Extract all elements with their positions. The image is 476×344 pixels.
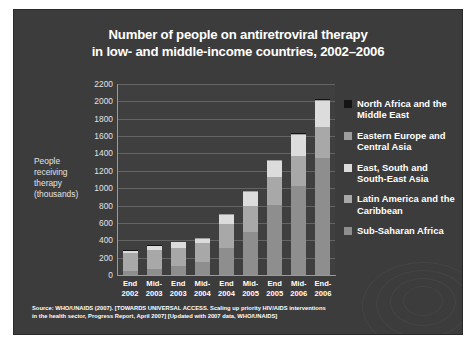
- y-axis-tick-label: 1600: [94, 131, 113, 141]
- y-axis-tick-label: 600: [99, 218, 113, 228]
- plot-area: 0200400600800100012001400160018002000220…: [118, 84, 335, 275]
- y-axis-tick-label: 200: [99, 253, 113, 263]
- chart-legend: North Africa and the Middle EastEastern …: [344, 98, 460, 246]
- legend-item-label: Sub-Saharan Africa: [357, 225, 444, 236]
- y-axis-tick-label: 800: [99, 201, 113, 211]
- gridline: [118, 119, 335, 120]
- bar-column[interactable]: [195, 238, 210, 275]
- x-axis-tick-label: Mid- 2003: [142, 279, 166, 298]
- bar-segment[interactable]: [123, 271, 138, 275]
- y-axis-tick-label: 2200: [94, 79, 113, 89]
- bar-segment[interactable]: [315, 158, 330, 275]
- legend-item-label: North Africa and the Middle East: [357, 98, 460, 121]
- legend-item-label: Latin America and the Caribbean: [357, 193, 460, 216]
- x-axis-tick-label: End 2002: [118, 279, 142, 298]
- bar-column[interactable]: [315, 99, 330, 275]
- source-line-2: in the health sector, Progress Report, A…: [32, 312, 444, 320]
- bar-segment[interactable]: [243, 206, 258, 233]
- legend-item[interactable]: Sub-Saharan Africa: [344, 225, 460, 236]
- y-axis-tick-label: 400: [99, 235, 113, 245]
- bar-segment[interactable]: [147, 269, 162, 276]
- bar-segment[interactable]: [219, 224, 234, 248]
- x-axis-tick-label: End 2005: [263, 279, 287, 298]
- bar-segment[interactable]: [267, 161, 282, 177]
- legend-item[interactable]: East, South and South-East Asia: [344, 162, 460, 185]
- bar-column[interactable]: [219, 214, 234, 275]
- x-axis-tick-label: Mid- 2005: [239, 279, 263, 298]
- y-axis-tick-label: 1200: [94, 166, 113, 176]
- bar-segment[interactable]: [315, 127, 330, 158]
- bar-segment[interactable]: [195, 262, 210, 275]
- bar-column[interactable]: [171, 242, 186, 275]
- x-axis-tick-label: Mid- 2006: [287, 279, 311, 298]
- bar-column[interactable]: [147, 245, 162, 275]
- gridline: [118, 101, 335, 102]
- bar-segment[interactable]: [267, 177, 282, 205]
- legend-item[interactable]: Latin America and the Caribbean: [344, 193, 460, 216]
- bar-segment[interactable]: [171, 266, 186, 275]
- bar-segment[interactable]: [123, 253, 138, 270]
- y-axis-tick-label: 0: [108, 270, 113, 280]
- y-axis-tick-label: 1800: [94, 114, 113, 124]
- legend-swatch-icon: [344, 227, 352, 235]
- bar-segment[interactable]: [171, 248, 186, 267]
- bar-segment[interactable]: [219, 248, 234, 275]
- source-note: Source: WHO/UNAIDS (2007). [TOWARDS UNIV…: [32, 304, 444, 320]
- legend-item[interactable]: Eastern Europe and Central Asia: [344, 130, 460, 153]
- bar-segment[interactable]: [243, 192, 258, 205]
- legend-swatch-icon: [344, 132, 352, 140]
- x-axis-tick-label: End 2003: [166, 279, 190, 298]
- y-axis-tick-label: 1400: [94, 148, 113, 158]
- x-axis-tick-label: Mid- 2004: [190, 279, 214, 298]
- bar-segment[interactable]: [243, 232, 258, 275]
- legend-swatch-icon: [344, 100, 352, 108]
- bar-segment[interactable]: [291, 186, 306, 275]
- bar-segment[interactable]: [267, 205, 282, 275]
- x-axis-line: [117, 275, 336, 276]
- gridline: [118, 84, 335, 85]
- y-axis-tick-label: 1000: [94, 183, 113, 193]
- legend-item-label: Eastern Europe and Central Asia: [357, 130, 460, 153]
- bar-column[interactable]: [123, 250, 138, 275]
- bar-column[interactable]: [267, 160, 282, 275]
- bar-segment[interactable]: [219, 215, 234, 224]
- bar-column[interactable]: [243, 191, 258, 275]
- y-axis-tick-label: 2000: [94, 96, 113, 106]
- bar-segment[interactable]: [315, 101, 330, 127]
- legend-swatch-icon: [344, 195, 352, 203]
- bar-segment[interactable]: [291, 156, 306, 186]
- x-axis-tick-label: End 2004: [214, 279, 238, 298]
- y-axis-line: [117, 84, 118, 275]
- bar-segment[interactable]: [147, 250, 162, 268]
- x-axis-tick-label: End- 2006: [311, 279, 335, 298]
- bar-segment[interactable]: [291, 135, 306, 156]
- legend-item-label: East, South and South-East Asia: [357, 162, 460, 185]
- slide-canvas: Number of people on antiretroviral thera…: [14, 10, 462, 334]
- legend-item[interactable]: North Africa and the Middle East: [344, 98, 460, 121]
- source-line-1: Source: WHO/UNAIDS (2007). [TOWARDS UNIV…: [32, 304, 444, 312]
- legend-swatch-icon: [344, 164, 352, 172]
- bar-segment[interactable]: [195, 243, 210, 262]
- bar-column[interactable]: [291, 133, 306, 275]
